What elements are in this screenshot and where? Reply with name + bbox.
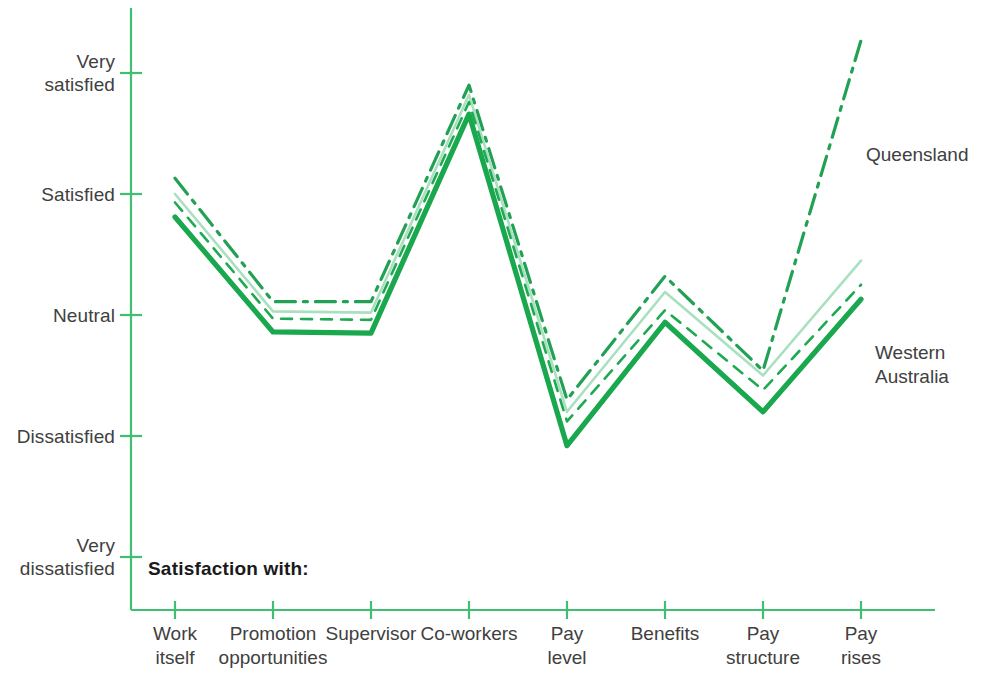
series-label-western-australia: Western Australia [875,341,949,389]
ytick-label-dissatisfied: Dissatisfied [0,425,115,448]
ytick-label-very-satisfied: Very satisfied [0,50,115,96]
ytick-label-satisfied: Satisfied [0,183,115,206]
ytick-label-very-dissatisfied: Very dissatisfied [0,534,115,580]
ytick-label-neutral: Neutral [0,304,115,327]
series-label-queensland: Queensland [866,143,968,167]
chart-canvas [0,0,982,698]
chart-series-lines [175,40,861,445]
satisfaction-line-chart: Very satisfied Satisfied Neutral Dissati… [0,0,982,698]
xtick-label-pay-rises: Pay rises [771,622,951,670]
legend-title: Satisfaction with: [148,558,309,580]
